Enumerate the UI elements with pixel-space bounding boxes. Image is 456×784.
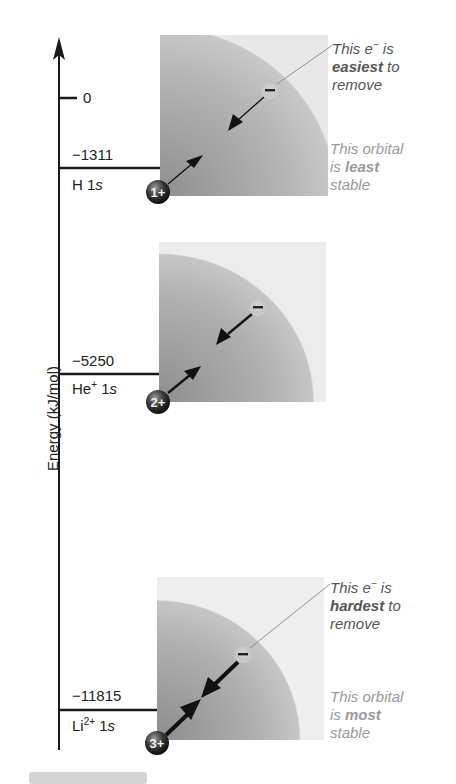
nucleus-li: 3+ — [145, 731, 169, 755]
annotation-least-stable: This orbital is least stable — [330, 140, 403, 194]
orbital-number: 1 — [101, 380, 109, 397]
level-label-li: Li2+ 1s — [72, 717, 115, 733]
electron-he — [249, 298, 267, 316]
annotation-most-stable: This orbital is most stable — [330, 688, 403, 742]
nucleus-h: 1+ — [146, 180, 170, 204]
level-label-he: He+ 1s — [72, 380, 117, 396]
orbital-letter: s — [108, 717, 116, 734]
electron-h — [261, 81, 279, 99]
annotation-hardest: This e− is hardest to remove — [330, 575, 401, 633]
y-axis-title: Energy (kJ/mol) — [44, 359, 61, 479]
nucleus-charge-label: 3+ — [150, 736, 165, 751]
orbital-letter: s — [95, 176, 103, 193]
nucleus-charge-label: 2+ — [151, 395, 166, 410]
level-label-h: H 1s — [72, 176, 103, 192]
annotation-easiest: This e− is easiest to remove — [332, 36, 400, 94]
figure-caption-tab — [29, 772, 147, 784]
minus-icon — [265, 89, 275, 91]
energy-value-he: −5250 — [72, 353, 114, 368]
electron-li — [234, 645, 252, 663]
minus-icon — [253, 306, 263, 308]
minus-icon — [238, 653, 248, 655]
zero-tick-label: 0 — [83, 90, 91, 105]
nucleus-he: 2+ — [146, 390, 170, 414]
energy-value-li: −11815 — [72, 688, 121, 703]
nucleus-charge-label: 1+ — [151, 185, 166, 200]
orbital-number: 1 — [99, 717, 107, 734]
orbital-letter: s — [110, 380, 118, 397]
energy-value-h: −1311 — [72, 147, 113, 162]
